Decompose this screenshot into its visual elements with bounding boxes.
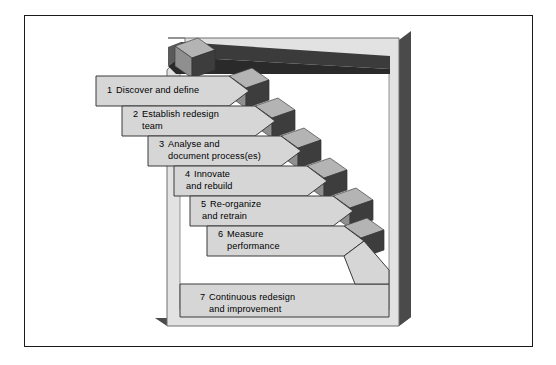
step-label-5: 5Re-organizeand retrain [201,198,261,223]
step-number-4: 4 [185,168,194,180]
step-text-7-line2: and improvement [209,304,281,314]
step-label-1: 1Discover and define [107,84,199,96]
step-number-7: 7 [200,291,209,303]
step-text-6-line2: performance [227,241,280,251]
step-number-2: 2 [133,108,142,120]
step-text-2-line1: Establish redesign [142,109,219,119]
step-label-2: 2Establish redesignteam [133,108,219,133]
step-text-4-line1: Innovate [194,169,230,179]
step-text-6-line1: Measure [227,229,263,239]
step-label-3: 3Analyse anddocument process(es) [159,138,261,163]
step-text-1-line1: Discover and define [116,85,199,95]
step-number-3: 3 [159,138,168,150]
step-text-4-line2: and rebuild [186,181,233,191]
step-text-5-line1: Re-organize [210,199,261,209]
step-label-6: 6Measureperformance [218,228,280,253]
step-text-5-line2: and retrain [202,211,247,221]
step-number-1: 1 [107,84,116,96]
step-text-2-line2: team [142,121,163,131]
step-text-3-line1: Analyse and [168,139,220,149]
step-text-7-line1: Continuous redesign [209,292,295,302]
step-label-4: 4Innovateand rebuild [185,168,233,193]
step-number-6: 6 [218,228,227,240]
step-text-3-line2: document process(es) [168,151,261,161]
step-label-7: 7Continuous redesignand improvement [200,291,295,316]
step-number-5: 5 [201,198,210,210]
